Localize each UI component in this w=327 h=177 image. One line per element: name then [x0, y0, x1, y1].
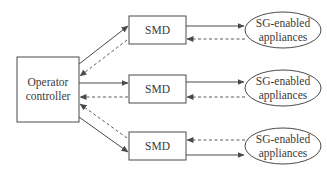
smart-grid-diagram: Operator controller SMD SMD SMD SG-enabl…	[0, 0, 327, 177]
smd-node-2: SMD	[129, 75, 186, 103]
appliances-node-3: SG-enabled appliances	[245, 128, 321, 164]
smd-label-1: SMD	[145, 24, 170, 36]
appliances-label-1-line1: SG-enabled	[256, 17, 311, 29]
appliances-label-2-line1: SG-enabled	[256, 75, 311, 87]
arrow-smd-3-to-controller	[80, 104, 127, 138]
smd-node-3: SMD	[129, 132, 186, 160]
appliances-label-3-line1: SG-enabled	[256, 133, 311, 145]
smd-label-2: SMD	[145, 83, 170, 95]
operator-controller-label-line1: Operator	[28, 76, 69, 89]
appliances-label-3-line2: appliances	[259, 147, 308, 160]
smd-label-3: SMD	[145, 140, 170, 152]
appliances-label-2-line2: appliances	[259, 89, 308, 102]
appliances-label-1-line2: appliances	[259, 31, 308, 44]
arrow-controller-to-smd-3	[79, 117, 128, 152]
appliances-node-1: SG-enabled appliances	[245, 12, 321, 48]
smd-node-1: SMD	[129, 16, 186, 44]
operator-controller-label-line2: controller	[26, 90, 71, 102]
appliances-node-2: SG-enabled appliances	[245, 70, 321, 106]
operator-controller-node: Operator controller	[17, 57, 79, 122]
